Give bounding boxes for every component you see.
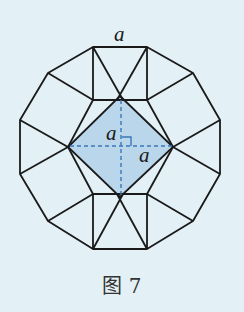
label-top-side: a: [114, 22, 125, 46]
label-vertical-half: a: [106, 121, 117, 145]
dodecagon-diagram: a a a: [0, 0, 244, 312]
figure-caption: 图 7: [0, 270, 244, 299]
label-horizontal-half: a: [139, 143, 150, 167]
